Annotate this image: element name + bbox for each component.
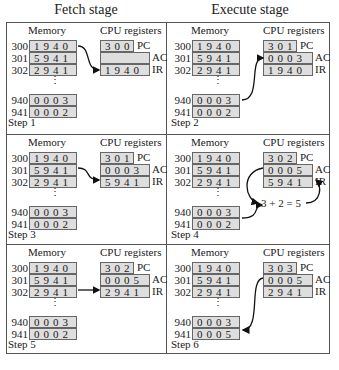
data-flow-arrows (0, 0, 339, 370)
